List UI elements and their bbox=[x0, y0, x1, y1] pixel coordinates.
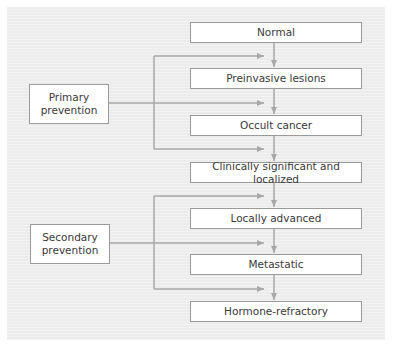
stage-metastatic: Metastatic bbox=[190, 254, 362, 275]
stage-label: Normal bbox=[257, 26, 295, 39]
primary-prevention-box: Primary prevention bbox=[29, 84, 109, 124]
secondary-prevention-box: Secondary prevention bbox=[30, 224, 110, 264]
primary-label-line2: prevention bbox=[41, 104, 98, 117]
stage-label: Locally advanced bbox=[231, 212, 322, 225]
stage-clinically-significant: Clinically significant and localized bbox=[190, 162, 362, 183]
secondary-label-line1: Secondary bbox=[42, 231, 99, 244]
stage-label: Hormone-refractory bbox=[224, 305, 328, 318]
stage-occult-cancer: Occult cancer bbox=[190, 115, 362, 136]
stage-label: Occult cancer bbox=[240, 119, 312, 132]
primary-label-line1: Primary bbox=[41, 91, 98, 104]
stage-label: Preinvasive lesions bbox=[226, 72, 326, 85]
stage-label: Metastatic bbox=[249, 258, 304, 271]
stage-preinvasive-lesions: Preinvasive lesions bbox=[190, 68, 362, 89]
stage-label: Clinically significant and localized bbox=[191, 160, 361, 186]
stage-hormone-refractory: Hormone-refractory bbox=[190, 301, 362, 322]
stage-normal: Normal bbox=[190, 22, 362, 43]
stage-locally-advanced: Locally advanced bbox=[190, 208, 362, 229]
secondary-label-line2: prevention bbox=[42, 244, 99, 257]
